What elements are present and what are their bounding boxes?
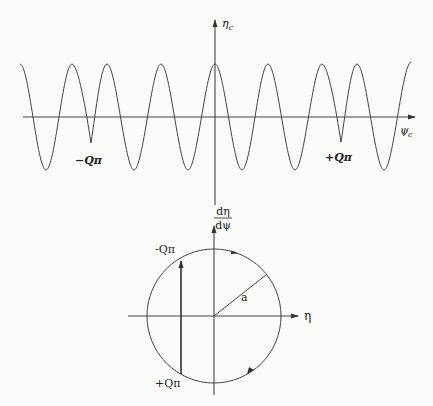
x-axis-label: ψ c bbox=[400, 124, 413, 139]
svg-text:c: c bbox=[408, 130, 413, 139]
circle-direction-arrow-top bbox=[231, 250, 239, 255]
eta-axis-label: η bbox=[304, 309, 311, 323]
svg-text:dη: dη bbox=[216, 205, 230, 218]
svg-text:dψ: dψ bbox=[215, 219, 231, 232]
radius-label: a bbox=[241, 291, 248, 304]
cusp-left-label: −Qπ bbox=[75, 154, 103, 167]
cusp-right-label: +Qπ bbox=[325, 151, 353, 164]
top-plot: η c ψ c −Qπ +Qπ bbox=[20, 17, 415, 205]
phase-portrait-figure: η c ψ c −Qπ +Qπ dη dψ η a -Qπ bbox=[0, 0, 433, 406]
d-eta-d-psi-label: dη dψ bbox=[214, 205, 232, 232]
circle-direction-arrow-bottom bbox=[247, 367, 254, 374]
svg-text:c: c bbox=[229, 23, 234, 32]
top-chord-label: -Qπ bbox=[155, 243, 175, 256]
bottom-plot: dη dψ η a -Qπ +Qπ bbox=[128, 205, 311, 395]
y-axis-label: η c bbox=[222, 17, 234, 32]
bottom-chord-label: +Qπ bbox=[155, 377, 180, 390]
radius-line bbox=[214, 275, 266, 316]
